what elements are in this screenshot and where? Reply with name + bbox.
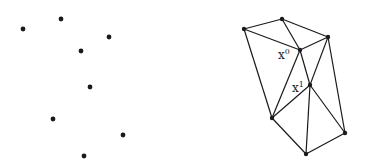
edge <box>282 19 300 50</box>
vertex <box>304 152 308 156</box>
point <box>51 117 56 122</box>
edge <box>244 29 300 50</box>
label-x0: x0 <box>278 47 290 62</box>
point <box>21 27 26 32</box>
point <box>121 133 126 138</box>
point-set-and-triangulation-diagram: x0 x1 <box>0 0 365 167</box>
edge <box>272 85 310 118</box>
vertex <box>298 48 302 52</box>
vertex <box>343 131 347 135</box>
edge <box>328 37 345 133</box>
edge <box>306 85 310 154</box>
edge <box>272 118 306 154</box>
point <box>59 17 64 22</box>
vertex <box>270 116 274 120</box>
edge <box>244 29 272 118</box>
point <box>82 154 87 159</box>
edge <box>282 19 328 37</box>
edge <box>244 19 282 29</box>
label-x1: x1 <box>292 80 304 95</box>
vertex <box>326 35 330 39</box>
vertex <box>280 17 284 21</box>
unconnected-point-set <box>21 17 126 159</box>
vertex <box>308 83 312 87</box>
point <box>79 49 84 54</box>
point <box>107 35 112 40</box>
edge <box>310 85 345 133</box>
point <box>88 85 93 90</box>
edge <box>306 133 345 154</box>
vertex <box>242 27 246 31</box>
